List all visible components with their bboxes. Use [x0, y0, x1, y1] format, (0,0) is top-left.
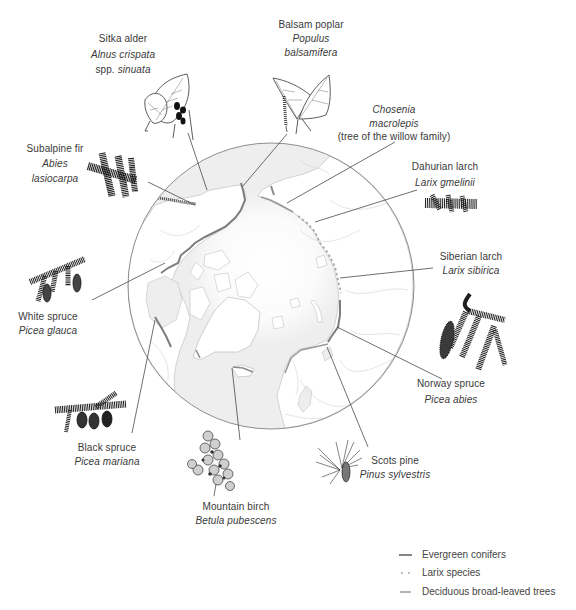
figure-canvas: [0, 0, 576, 610]
scientific-name: Picea mariana: [74, 455, 139, 469]
mountain-birch-illustration: [188, 431, 235, 496]
common-name: Subalpine fir: [27, 141, 84, 156]
legend-item-deciduous-broad-leaved: Deciduous broad-leaved trees: [396, 585, 576, 599]
label-white-spruce: White spruce Picea glauca: [18, 310, 78, 337]
evergreen-conifers-swatch: [399, 554, 412, 556]
legend-label: Larix species: [422, 566, 480, 580]
genus-name: Abies: [27, 156, 84, 171]
white-spruce-illustration: [30, 259, 85, 302]
subspecies-name: sinuata: [118, 64, 151, 75]
scientific-name: Pinus sylvestris: [360, 468, 431, 482]
subspecies-rank: spp.: [95, 64, 114, 75]
species-epithet: balsamifera: [278, 46, 343, 60]
label-black-spruce: Black spruce Picea mariana: [74, 441, 139, 469]
common-name: Scots pine: [360, 454, 431, 468]
scientific-name: Alnus crispata: [91, 47, 155, 63]
species-epithet: macrolepis: [338, 117, 451, 131]
label-balsam-poplar: Balsam poplar Populus balsamifera: [278, 18, 343, 60]
legend-label: Evergreen conifers: [422, 548, 506, 562]
scientific-name: Picea glauca: [18, 324, 78, 338]
legend-item-evergreen-conifers: Evergreen conifers: [396, 548, 576, 562]
common-name: Balsam poplar: [278, 18, 343, 32]
dahurian-larch-illustration: [425, 195, 477, 212]
common-name: Black spruce: [74, 441, 139, 455]
subspecies-line: spp. sinuata: [91, 62, 155, 78]
label-norway-spruce: Norway spruce Picea abies: [417, 376, 485, 408]
scientific-name: Larix sibirica: [440, 264, 503, 278]
common-name: Siberian larch: [440, 250, 503, 264]
common-name: Norway spruce: [417, 376, 485, 392]
legend-label: Deciduous broad-leaved trees: [422, 585, 555, 599]
black-spruce-illustration: [55, 393, 126, 432]
scots-pine-illustration: [316, 440, 362, 484]
balsam-poplar-illustration: [273, 75, 330, 134]
label-chosenia: Chosenia macrolepis (tree of the willow …: [338, 103, 451, 144]
species-note: (tree of the willow family): [338, 130, 451, 144]
norway-spruce-illustration: [437, 294, 505, 370]
common-name: White spruce: [18, 310, 78, 324]
scientific-name: Larix gmelinii: [412, 175, 478, 191]
label-mountain-birch: Mountain birch Betula pubescens: [195, 500, 276, 528]
scientific-name: Picea abies: [417, 392, 485, 408]
larix-species-swatch: [399, 572, 412, 574]
subalpine-fir-illustration: [88, 153, 136, 197]
genus-name: Populus: [278, 32, 343, 46]
sitka-alder-illustration: [145, 74, 193, 140]
label-scots-pine: Scots pine Pinus sylvestris: [360, 454, 431, 482]
common-name: Dahurian larch: [412, 159, 478, 175]
species-epithet: lasiocarpa: [27, 171, 84, 186]
label-siberian-larch: Siberian larch Larix sibirica: [440, 250, 503, 278]
label-dahurian-larch: Dahurian larch Larix gmelinii: [412, 159, 478, 190]
common-name: Mountain birch: [195, 500, 276, 514]
genus-name: Chosenia: [338, 103, 451, 117]
label-sitka-alder: Sitka alder Alnus crispata spp. sinuata: [91, 31, 155, 78]
scientific-name: Betula pubescens: [195, 514, 276, 528]
deciduous-swatch: [400, 591, 411, 593]
common-name: Sitka alder: [91, 31, 155, 47]
polar-map: [128, 143, 414, 429]
label-subalpine-fir: Subalpine fir Abies lasiocarpa: [27, 141, 84, 186]
legend-item-larix-species: Larix species: [396, 566, 576, 580]
